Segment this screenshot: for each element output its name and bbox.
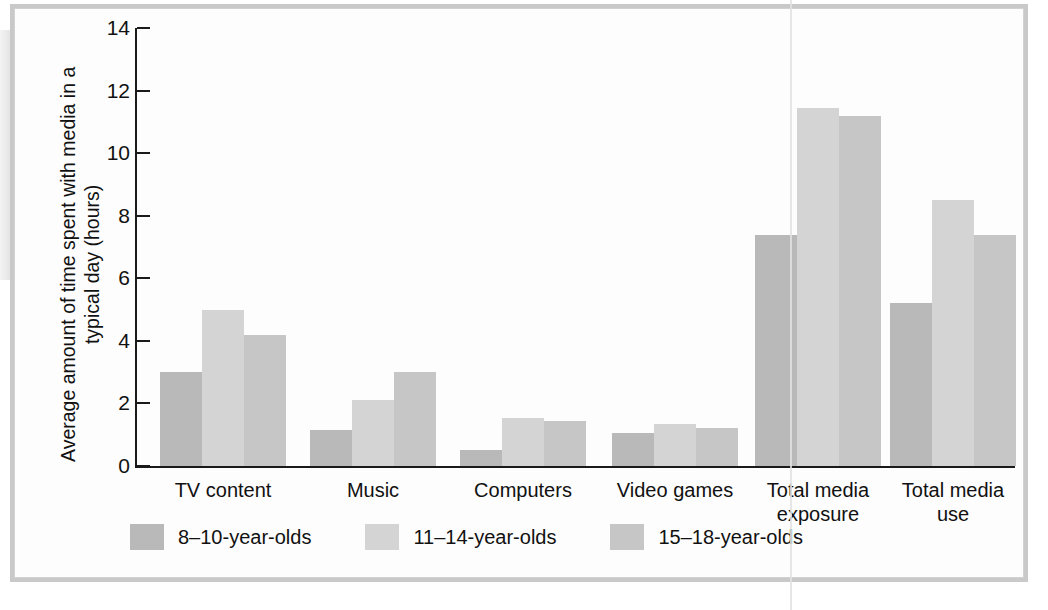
plot-area: 02468101214 Average amount of time spent… bbox=[0, 0, 1048, 610]
bar-2-2 bbox=[544, 421, 586, 466]
legend-item-2: 15–18-year-olds bbox=[610, 524, 857, 550]
bar-5-2 bbox=[974, 235, 1016, 467]
legend-swatch-1 bbox=[365, 524, 399, 550]
bar-0-2 bbox=[244, 335, 286, 466]
legend-swatch-2 bbox=[610, 524, 644, 550]
bar-3-1 bbox=[654, 424, 696, 466]
x-category-label-5: Total media use bbox=[863, 478, 1043, 526]
bars-layer bbox=[0, 0, 1048, 466]
legend-item-0: 8–10-year-olds bbox=[130, 524, 365, 550]
bar-3-0 bbox=[612, 433, 654, 466]
legend-label-0: 8–10-year-olds bbox=[178, 526, 311, 549]
bar-5-1 bbox=[932, 200, 974, 466]
bar-2-1 bbox=[502, 418, 544, 466]
bar-1-2 bbox=[394, 372, 436, 466]
bar-3-2 bbox=[696, 428, 738, 466]
legend-swatch-0 bbox=[130, 524, 164, 550]
bar-1-1 bbox=[352, 400, 394, 466]
legend-item-1: 11–14-year-olds bbox=[365, 524, 610, 550]
bar-1-0 bbox=[310, 430, 352, 466]
legend-label-1: 11–14-year-olds bbox=[413, 526, 556, 549]
scan-fold-line bbox=[790, 0, 792, 610]
x-axis-line bbox=[135, 466, 1015, 468]
bar-4-1 bbox=[797, 108, 839, 466]
bar-5-0 bbox=[890, 303, 932, 466]
bar-2-0 bbox=[460, 450, 502, 466]
chart-legend: 8–10-year-olds11–14-year-olds15–18-year-… bbox=[130, 524, 857, 550]
bar-0-1 bbox=[202, 310, 244, 466]
bar-0-0 bbox=[160, 372, 202, 466]
bar-4-2 bbox=[839, 116, 881, 466]
chart-figure: 02468101214 Average amount of time spent… bbox=[0, 0, 1048, 610]
legend-label-2: 15–18-year-olds bbox=[658, 526, 803, 549]
